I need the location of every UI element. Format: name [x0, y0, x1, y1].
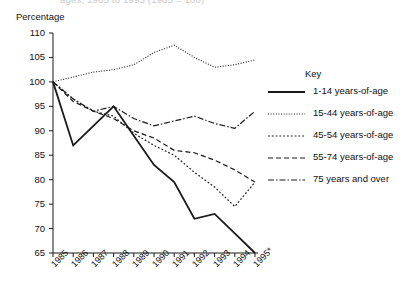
series-line-4: [53, 82, 255, 128]
data-series-group: [53, 45, 255, 253]
y-axis-tick-label: 100: [19, 76, 45, 87]
series-line-1: [53, 45, 255, 82]
legend-label-2: 45-54 years-of-age: [313, 129, 393, 140]
cut-off-title: ages, 1985 to 1995 (1985 = 100): [60, 0, 204, 5]
legend-label-1: 15-44 years-of-age: [313, 107, 393, 118]
legend-title: Key: [305, 68, 321, 79]
y-axis-tick-label: 85: [19, 149, 45, 160]
y-axis-tick-label: 110: [19, 27, 45, 38]
series-line-2: [53, 82, 255, 207]
series-line-0: [53, 82, 255, 253]
y-axis-ticks: [49, 33, 53, 253]
figure: ages, 1985 to 1995 (1985 = 100) Percenta…: [0, 0, 415, 304]
y-axis-title: Percentage: [16, 11, 65, 22]
y-axis-tick-label: 70: [19, 223, 45, 234]
y-axis-tick-label: 105: [19, 51, 45, 62]
legend-swatch-group: [268, 92, 305, 180]
legend-label-3: 55-74 years-of-age: [313, 151, 393, 162]
legend-label-4: 75 years and over: [313, 173, 389, 184]
y-axis-tick-label: 75: [19, 198, 45, 209]
axes: [53, 33, 258, 253]
y-axis-tick-label: 80: [19, 174, 45, 185]
legend-label-0: 1-14 years-of-age: [313, 85, 388, 96]
y-axis-tick-label: 95: [19, 100, 45, 111]
series-line-3: [53, 82, 255, 182]
y-axis-tick-label: 65: [19, 247, 45, 258]
y-axis-tick-label: 90: [19, 125, 45, 136]
